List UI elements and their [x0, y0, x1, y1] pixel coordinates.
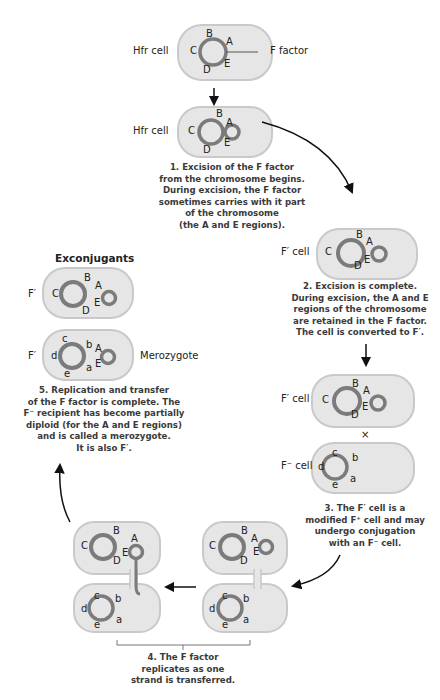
caption-step-5: 5. Replication and transfer of the F fac… [14, 385, 194, 454]
gene-label: b [115, 593, 121, 604]
gene-label: A [226, 36, 233, 47]
gene-label: d [209, 603, 215, 614]
gene-label: E [224, 58, 230, 69]
gene-label: E [94, 297, 100, 308]
gene-label: B [356, 229, 363, 240]
gene-label: E [253, 546, 259, 557]
gene-label: D [82, 305, 90, 316]
gene-label: e [64, 368, 70, 379]
gene-label: E [122, 547, 128, 558]
gene-label: e [94, 619, 100, 630]
gene-label: c [332, 447, 338, 458]
hfr-cell-label: Hfr cell [133, 45, 169, 56]
exconjugant-bottom-label: F′ [28, 350, 36, 361]
gene-label: A [363, 385, 370, 396]
f-factor-label: F factor [270, 45, 308, 56]
gene-label: b [243, 593, 249, 604]
gene-label: D [351, 409, 359, 420]
fprime-donor-label: F′ cell [281, 393, 309, 404]
fprime-cell-label: F′ cell [281, 246, 309, 257]
merozygote-label: Merozygote [140, 350, 199, 361]
exconjugants-heading: Exconjugants [55, 252, 134, 264]
gene-label: C [322, 394, 329, 405]
gene-label: e [222, 619, 228, 630]
gene-label: C [81, 540, 88, 551]
fminus-recipient-cell [312, 443, 414, 493]
gene-label: D [203, 144, 211, 155]
curved-arrow-to-exconjugants [60, 465, 70, 522]
exconjugant-top-label: F′ [28, 288, 36, 299]
gene-label: d [51, 350, 57, 361]
gene-label: a [116, 614, 122, 625]
gene-label: B [216, 108, 223, 119]
caption-step-1: 1. Excision of the F factor from the chr… [142, 162, 322, 231]
gene-label: B [206, 28, 213, 39]
gene-label: A [226, 117, 233, 128]
gene-label: c [94, 590, 100, 601]
diagram-canvas [0, 0, 440, 700]
gene-label: B [352, 378, 359, 389]
gene-label: c [62, 333, 68, 344]
gene-label: C [190, 45, 197, 56]
gene-label: A [95, 343, 102, 354]
gene-label: c [222, 590, 228, 601]
gene-label: A [131, 533, 138, 544]
gene-label: D [354, 260, 362, 271]
caption-step-3: 3. The F′ cell is a modified F⁺ cell and… [290, 503, 440, 549]
bracket [117, 640, 250, 650]
gene-label: E [362, 401, 368, 412]
gene-label: E [95, 358, 101, 369]
gene-label: a [86, 362, 92, 373]
gene-label: A [95, 280, 102, 291]
gene-label: A [366, 236, 373, 247]
hfr-cell-label-2: Hfr cell [133, 125, 169, 136]
gene-label: E [364, 254, 370, 265]
caption-step-4: 4. The F factor replicates as one strand… [108, 652, 258, 687]
gene-label: C [325, 246, 332, 257]
gene-label: d [81, 603, 87, 614]
gene-label: e [332, 479, 338, 490]
cross-symbol: × [361, 429, 369, 440]
gene-label: d [318, 461, 324, 472]
gene-label: b [352, 452, 358, 463]
gene-label: D [240, 555, 248, 566]
gene-label: b [86, 339, 92, 350]
gene-label: D [113, 555, 121, 566]
curved-arrow-to-conjugation [293, 555, 340, 586]
fminus-recipient-label: F⁻ cell [281, 460, 312, 471]
gene-label: C [52, 288, 59, 299]
gene-label: D [203, 64, 211, 75]
gene-label: C [188, 125, 195, 136]
gene-label: B [113, 525, 120, 536]
gene-label: E [224, 137, 230, 148]
gene-label: C [209, 540, 216, 551]
gene-label: a [350, 473, 356, 484]
caption-step-2: 2. Excision is complete. During excision… [280, 281, 440, 339]
gene-label: a [243, 614, 249, 625]
gene-label: B [84, 272, 91, 283]
gene-label: B [241, 525, 248, 536]
gene-label: A [251, 533, 258, 544]
